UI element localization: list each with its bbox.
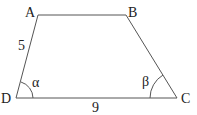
angle-arc-c <box>150 75 163 98</box>
vertex-label-b: B <box>128 5 137 20</box>
vertex-label-c: C <box>181 91 190 106</box>
trapezoid-diagram: A B C D 5 9 α β <box>0 0 197 115</box>
side-label-ad: 5 <box>18 38 25 53</box>
angle-label-alpha: α <box>32 75 40 90</box>
vertex-label-d: D <box>1 91 11 106</box>
vertex-label-a: A <box>25 5 36 20</box>
angle-label-beta: β <box>142 74 149 89</box>
side-label-dc: 9 <box>92 100 99 115</box>
